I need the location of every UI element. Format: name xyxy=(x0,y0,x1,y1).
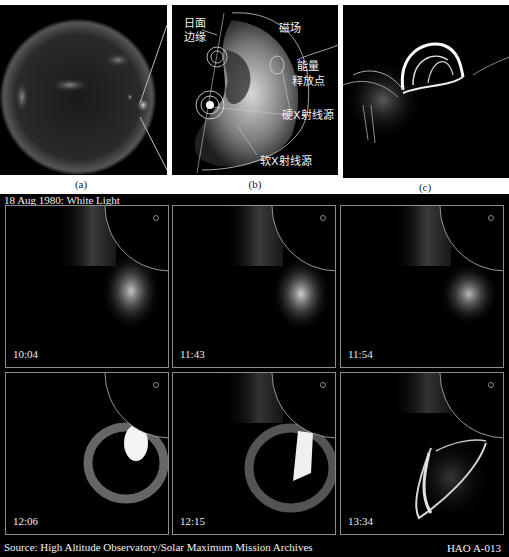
flare-loop-diagram: 日面 边缘 磁场 能量 释放点 硬X射线源 软X射线源 xyxy=(172,5,338,175)
cme-image-sequence: 18 Aug 1980: White Light 10:04 11:43 xyxy=(0,194,509,557)
label-solar-limb-2: 边缘 xyxy=(184,31,206,44)
frame-5: 12:15 xyxy=(172,372,336,535)
sun-disk-graphic xyxy=(0,5,167,175)
frame-time: 11:54 xyxy=(348,348,373,360)
panel-c-caption: (c) xyxy=(405,181,445,193)
label-soft-xray-source: 软X射线源 xyxy=(260,154,312,168)
label-solar-limb-1: 日面 xyxy=(184,17,206,30)
source-credit: Source: High Altitude Observatory/Solar … xyxy=(4,541,313,553)
coronagraph-frame-graphic xyxy=(6,373,169,535)
frame-3: 11:54 xyxy=(340,205,504,368)
frame-time: 12:15 xyxy=(180,515,205,527)
label-energy-release-2: 释放点 xyxy=(292,74,325,88)
image-id: HAO A-013 xyxy=(447,542,501,554)
label-hard-xray-source: 硬X射线源 xyxy=(282,108,334,122)
label-magnetic-field: 磁场 xyxy=(279,21,301,35)
frame-4: 12:06 xyxy=(5,372,169,535)
coronagraph-frame-graphic xyxy=(173,206,336,368)
frame-1: 10:04 xyxy=(5,205,169,368)
coronal-loops-graphic xyxy=(343,5,509,178)
coronagraph-frame-graphic xyxy=(341,373,504,535)
frame-time: 13:34 xyxy=(348,515,373,527)
panel-b-flare-schematic: 日面 边缘 磁场 能量 释放点 硬X射线源 软X射线源 xyxy=(172,5,338,175)
frame-6: 13:34 xyxy=(340,372,504,535)
coronagraph-frame-graphic xyxy=(341,206,504,368)
label-energy-release-1: 能量 xyxy=(297,59,319,73)
panel-b-caption: (b) xyxy=(235,178,275,190)
frame-time: 11:43 xyxy=(180,348,205,360)
frame-time: 10:04 xyxy=(13,348,38,360)
panel-a-xray-sun-image xyxy=(0,5,167,175)
panel-c-coronal-loops-image xyxy=(343,5,509,178)
frame-2: 11:43 xyxy=(172,205,336,368)
coronagraph-frame-graphic xyxy=(173,373,336,535)
panel-a-caption: (a) xyxy=(61,178,101,190)
coronagraph-frame-graphic xyxy=(6,206,169,368)
frame-time: 12:06 xyxy=(13,515,38,527)
